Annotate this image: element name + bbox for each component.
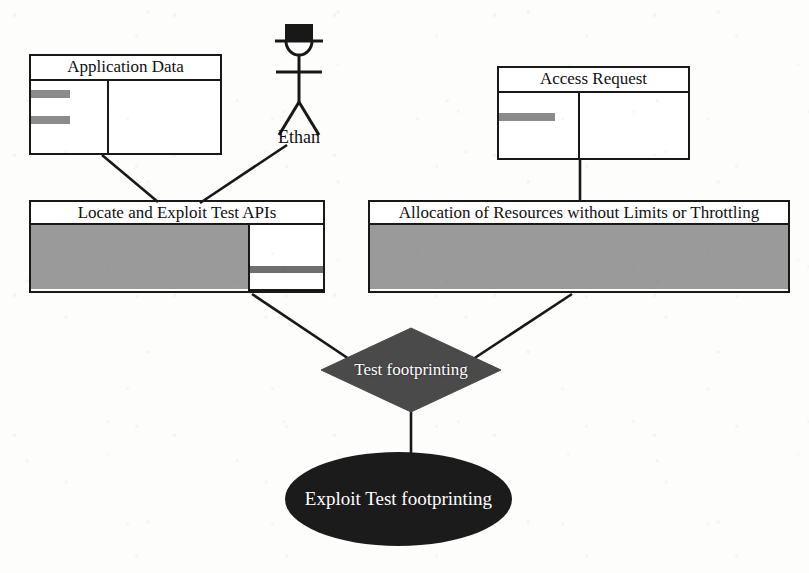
outcome-label: Exploit Test footprinting [285,452,512,546]
actor-hat-icon [285,24,313,40]
decision-label: Test footprinting [320,327,502,413]
connector-ethan-to-locate-exploit [200,145,287,203]
actor-label-ethan: Ethan [262,127,336,147]
decision-diamond-test-footprinting[interactable]: Test footprinting [320,327,502,413]
actor-ethan[interactable]: Ethan [268,22,330,147]
outcome-ellipse-exploit-test-footprinting[interactable]: Exploit Test footprinting [285,452,512,546]
actor-head-icon [286,41,312,55]
connector-application-data-to-locate-exploit [102,155,158,202]
